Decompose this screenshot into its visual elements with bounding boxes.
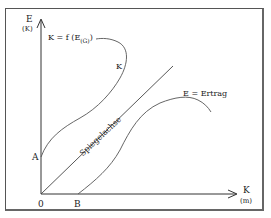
diagram-canvas [0, 0, 271, 218]
curve-k-equation-subscript: (G) [80, 37, 89, 44]
point-a-label: A [32, 153, 39, 162]
curve-k-label: K [116, 63, 122, 71]
curve-k-equation-suffix: ) [90, 33, 93, 42]
y-axis-unit: (K) [22, 26, 33, 33]
point-b-label: B [74, 200, 81, 209]
x-axis-label: K [243, 186, 250, 195]
curve-e [78, 97, 211, 194]
curve-k-equation: K = f (E(G)) [48, 34, 93, 44]
curve-e-label: E = Ertrag [183, 90, 227, 98]
curve-k-equation-prefix: K = f (E [48, 33, 80, 42]
x-axis-unit: (m) [240, 198, 252, 205]
origin-label: 0 [38, 200, 44, 209]
y-axis-label: E [26, 15, 33, 24]
curve-k [41, 38, 127, 157]
